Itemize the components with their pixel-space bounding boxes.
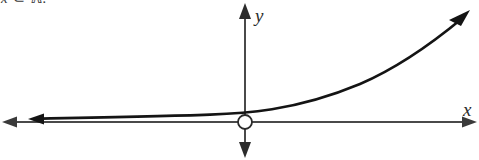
x-axis-left-arrowhead [2, 117, 17, 128]
y-axis-top-arrowhead [239, 3, 251, 19]
origin-open-circle [238, 115, 252, 129]
exponential-curve-path [36, 19, 462, 119]
y-axis-label: y [255, 6, 263, 25]
curve-upper-arrowhead [449, 10, 470, 26]
y-axis-bottom-arrowhead [239, 142, 251, 158]
exponential-graph-figure: x ⊂ ℝ. y x [0, 0, 479, 160]
coordinate-plane-svg [0, 0, 479, 160]
y-axis [239, 3, 251, 158]
exponential-curve [28, 10, 470, 125]
x-axis-label: x [463, 100, 471, 119]
